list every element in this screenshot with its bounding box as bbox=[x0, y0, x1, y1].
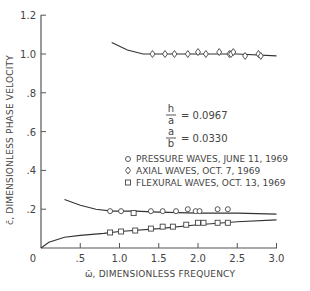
square-marker bbox=[148, 226, 153, 231]
parameter-h-over-a: h a = 0.0967 bbox=[166, 103, 228, 126]
legend-item-pressure: PRESSURE WAVES, JUNE 11, 1969 bbox=[126, 154, 289, 164]
y-ticks bbox=[41, 15, 46, 209]
y-tick-label: .4 bbox=[26, 165, 36, 176]
circle-marker bbox=[215, 207, 220, 212]
x-tick-label: 3.0 bbox=[269, 253, 285, 264]
x-tick-label: 2.0 bbox=[190, 253, 206, 264]
square-marker bbox=[119, 229, 124, 234]
diamond-marker bbox=[163, 51, 168, 58]
parameter-a-over-b: a b = 0.0330 bbox=[166, 126, 228, 149]
square-marker bbox=[225, 220, 230, 225]
circle-marker-icon bbox=[126, 157, 131, 162]
square-marker bbox=[184, 222, 189, 227]
y-tick-label: .8 bbox=[26, 88, 36, 99]
diamond-marker-icon bbox=[126, 167, 131, 174]
diamond-marker bbox=[203, 51, 208, 58]
x-axis-title: ω̄, DIMENSIONLESS FREQUENCY bbox=[85, 269, 236, 279]
svg-text:h: h bbox=[168, 103, 174, 114]
legend-item-flexural: FLEXURAL WAVES, OCT. 13, 1969 bbox=[126, 178, 286, 188]
x-tick-label: 1.5 bbox=[151, 253, 167, 264]
origin-label: 0 bbox=[30, 253, 36, 264]
diamond-marker bbox=[243, 52, 248, 59]
y-tick-label: .2 bbox=[26, 204, 36, 215]
svg-text:FLEXURAL WAVES, OCT. 13, 1969: FLEXURAL WAVES, OCT. 13, 1969 bbox=[136, 178, 286, 188]
x-tick-labels: .51.01.52.02.53.0 bbox=[75, 253, 284, 264]
svg-text:= 0.0967: = 0.0967 bbox=[181, 110, 228, 121]
phase-velocity-chart: .2.4.6.81.01.2 .51.01.52.02.53.0 0 ω̄, D… bbox=[0, 0, 310, 291]
square-marker bbox=[108, 230, 113, 235]
y-axis-title: c̄, DIMENSIONLESS PHASE VELOCITY bbox=[5, 55, 15, 225]
diamond-marker bbox=[172, 51, 177, 58]
theory-curve bbox=[112, 42, 277, 56]
theory-curves bbox=[41, 42, 277, 248]
diamond-marker bbox=[185, 51, 190, 58]
svg-text:= 0.0330: = 0.0330 bbox=[181, 133, 228, 144]
x-tick-label: .5 bbox=[75, 253, 85, 264]
diamond-marker bbox=[150, 51, 155, 58]
circle-marker bbox=[108, 209, 113, 214]
y-tick-label: .6 bbox=[26, 127, 36, 138]
svg-text:a: a bbox=[168, 115, 174, 126]
square-marker bbox=[201, 220, 206, 225]
circle-marker bbox=[119, 209, 124, 214]
x-ticks bbox=[80, 243, 276, 248]
circle-marker bbox=[197, 209, 202, 214]
square-marker bbox=[133, 228, 138, 233]
y-tick-labels: .2.4.6.81.01.2 bbox=[20, 10, 36, 215]
y-tick-label: 1.0 bbox=[20, 49, 36, 60]
square-marker bbox=[215, 220, 220, 225]
circle-marker bbox=[160, 209, 165, 214]
square-marker bbox=[196, 220, 201, 225]
square-marker bbox=[160, 224, 165, 229]
x-tick-label: 1.0 bbox=[112, 253, 128, 264]
legend-item-axial: AXIAL WAVES, OCT. 7, 1969 bbox=[126, 166, 261, 176]
legend: PRESSURE WAVES, JUNE 11, 1969 AXIAL WAVE… bbox=[126, 154, 289, 188]
svg-text:a: a bbox=[168, 126, 174, 137]
svg-text:PRESSURE WAVES, JUNE 11, 1969: PRESSURE WAVES, JUNE 11, 1969 bbox=[136, 154, 288, 164]
x-tick-label: 2.5 bbox=[229, 253, 245, 264]
circle-marker bbox=[148, 209, 153, 214]
square-marker bbox=[170, 224, 175, 229]
circle-marker bbox=[225, 207, 230, 212]
y-tick-label: 1.2 bbox=[20, 10, 36, 21]
circle-marker bbox=[185, 207, 190, 212]
theory-curve bbox=[65, 200, 277, 215]
svg-text:AXIAL WAVES, OCT. 7, 1969: AXIAL WAVES, OCT. 7, 1969 bbox=[136, 166, 260, 176]
circle-marker bbox=[174, 209, 179, 214]
square-marker-icon bbox=[126, 180, 131, 185]
square-marker bbox=[131, 211, 136, 216]
svg-text:b: b bbox=[168, 138, 174, 149]
